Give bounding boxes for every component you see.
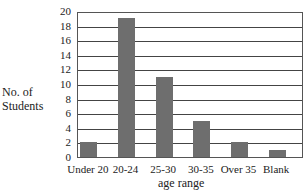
- y-tick-label: 4: [51, 123, 71, 134]
- gridline: [78, 70, 302, 71]
- y-tick-label: 20: [51, 6, 71, 17]
- y-axis-label-line2: Students: [2, 99, 43, 113]
- x-axis-label: age range: [158, 176, 204, 191]
- plot-area: [77, 12, 303, 158]
- bar-20-24: [118, 18, 135, 157]
- y-axis-label: No. of Students: [2, 85, 43, 113]
- bar-under-20: [80, 142, 97, 157]
- bar-25-30: [156, 77, 173, 157]
- gridline: [78, 41, 302, 42]
- y-tick-label: 6: [51, 108, 71, 119]
- y-tick-label: 0: [51, 152, 71, 163]
- bar-over-35: [231, 142, 248, 157]
- y-tick-label: 8: [51, 94, 71, 105]
- gridline: [78, 129, 302, 130]
- y-axis-label-line1: No. of: [2, 85, 43, 99]
- y-tick-label: 18: [51, 21, 71, 32]
- gridline: [78, 114, 302, 115]
- gridline: [78, 143, 302, 144]
- gridline: [78, 100, 302, 101]
- y-tick-label: 14: [51, 50, 71, 61]
- gridline: [78, 56, 302, 57]
- y-tick-label: 10: [51, 79, 71, 90]
- gridline: [78, 27, 302, 28]
- y-tick-label: 16: [51, 35, 71, 46]
- y-tick-label: 2: [51, 137, 71, 148]
- gridline: [78, 85, 302, 86]
- bar-30-35: [193, 121, 210, 158]
- bar-blank: [269, 150, 286, 157]
- y-tick-label: 12: [51, 64, 71, 75]
- x-tick-label: Blank: [254, 163, 298, 175]
